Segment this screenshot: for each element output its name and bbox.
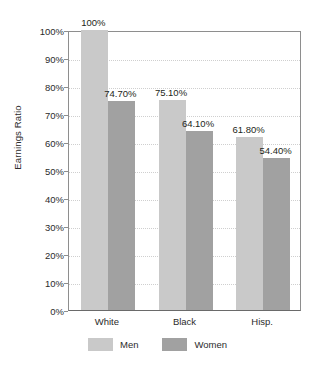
x-axis-label-hisp: Hisp.	[251, 316, 273, 327]
legend-item-women[interactable]: Women	[162, 338, 227, 351]
y-axis-tick-label: 60%	[16, 138, 64, 149]
y-axis-tick-label: 0%	[16, 306, 64, 317]
y-axis-tick-mark	[64, 227, 68, 228]
y-axis-tick-label: 90%	[16, 54, 64, 65]
y-axis-tick-mark	[64, 199, 68, 200]
bar-value-label: 75.10%	[155, 87, 187, 98]
y-axis-tick-mark	[64, 283, 68, 284]
y-axis-tick-mark	[64, 115, 68, 116]
legend-swatch-women	[162, 338, 187, 351]
bar-black-men	[159, 100, 186, 310]
chart-legend: MenWomen	[0, 338, 315, 351]
y-axis-tick-mark	[64, 143, 68, 144]
plot-area	[68, 31, 301, 311]
y-axis-tick-label: 20%	[16, 250, 64, 261]
y-axis-tick-label: 40%	[16, 194, 64, 205]
bar-value-label: 61.80%	[233, 124, 265, 135]
x-axis-label-white: White	[95, 316, 119, 327]
y-axis-tick-mark	[64, 255, 68, 256]
bar-hisp-women	[263, 158, 290, 310]
legend-swatch-men	[88, 338, 113, 351]
earnings-ratio-bar-chart: Earnings Ratio 100%90%80%70%60%50%40%30%…	[0, 0, 315, 369]
bar-value-label: 64.10%	[182, 118, 214, 129]
bar-black-women	[186, 131, 213, 310]
y-axis-tick-label: 50%	[16, 166, 64, 177]
bar-hisp-men	[236, 137, 263, 310]
y-axis-tick-label: 30%	[16, 222, 64, 233]
y-axis-tick-mark	[64, 171, 68, 172]
y-axis-tick-label: 100%	[16, 26, 64, 37]
x-axis-label-black: Black	[173, 316, 196, 327]
y-axis-tick-mark	[64, 311, 68, 312]
y-axis-tick-label: 10%	[16, 278, 64, 289]
legend-label: Men	[120, 339, 138, 350]
y-axis-tick-label: 80%	[16, 82, 64, 93]
bar-white-women	[108, 101, 135, 310]
legend-label: Women	[194, 339, 227, 350]
bar-value-label: 54.40%	[260, 145, 292, 156]
bar-value-label: 100%	[81, 17, 105, 28]
y-axis-tick-mark	[64, 87, 68, 88]
y-axis-tick-mark	[64, 31, 68, 32]
y-axis-tick-mark	[64, 59, 68, 60]
bar-white-men	[81, 30, 108, 310]
y-axis-tick-label: 70%	[16, 110, 64, 121]
bar-value-label: 74.70%	[104, 88, 136, 99]
legend-item-men[interactable]: Men	[88, 338, 138, 351]
